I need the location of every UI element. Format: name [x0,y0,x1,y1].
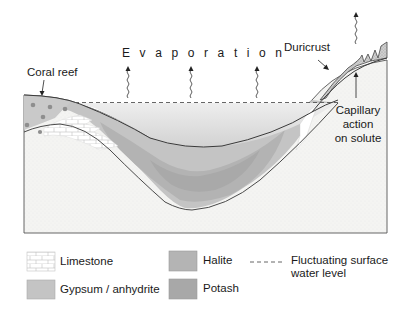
capillary-label-line2: action [333,118,383,131]
arrowhead-icon [40,91,45,96]
legend-swatch-gypsum [27,280,55,299]
duricrust-pointer [318,60,326,67]
arrowhead-icon [126,66,131,71]
arrowhead-icon [255,66,260,71]
capillary-label-line1: Capillary [333,104,383,117]
coral-reef-label: Coral reef [27,66,78,79]
legend-label-halite: Halite [203,254,232,267]
wavy-arrow-icon [127,70,129,98]
legend-label-limestone: Limestone [60,255,113,268]
arrowhead-icon [189,66,194,71]
capillary-label-line3: on solute [330,132,386,145]
legend-swatch-potash [169,279,197,299]
duricrust-label: Duricrust [284,41,330,54]
legend-label-water-level-line2: water level [291,267,346,280]
legend-label-gypsum: Gypsum / anhydrite [60,283,160,296]
legend-label-potash: Potash [203,282,239,295]
wavy-arrow-icon [355,16,357,44]
wavy-arrow-icon [190,70,192,98]
evaporation-label: Evaporation [122,46,292,60]
arrowhead-icon [354,12,359,17]
wavy-arrow-icon [256,70,258,98]
legend-swatch-halite [169,251,197,271]
legend-label-water-level-line1: Fluctuating surface [291,254,388,267]
legend-swatch-limestone [27,252,55,271]
